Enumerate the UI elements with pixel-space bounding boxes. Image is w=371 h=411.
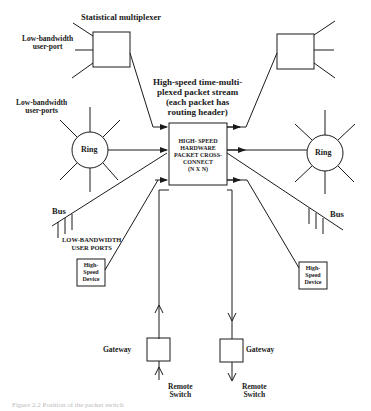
left-gateway-label: Gateway bbox=[103, 346, 131, 354]
label-line: High- bbox=[299, 265, 327, 272]
right-remote-switch-label: Remote Switch bbox=[242, 383, 267, 399]
label-line: routing header) bbox=[153, 107, 242, 117]
packet-stream-label: High-speed time-multi- plexed packet str… bbox=[153, 77, 242, 117]
label-line: LOW-BANDWIDTH bbox=[62, 236, 121, 244]
left-remote-switch-label: Remote Switch bbox=[168, 383, 193, 399]
low-bw-user-ports-label: Low-bandwidth user-ports bbox=[16, 99, 67, 115]
label-line: plexed packet stream bbox=[153, 87, 242, 97]
label-line: HIGH- SPEED bbox=[169, 138, 227, 145]
left-ring-label: Ring bbox=[81, 146, 97, 154]
label-line: USER PORTS bbox=[62, 244, 121, 252]
label-line: High- bbox=[77, 262, 105, 269]
left-gateway-box bbox=[147, 338, 170, 361]
right-gateway-box bbox=[220, 339, 243, 362]
label-line: (each packet has bbox=[153, 97, 242, 107]
cross-connect-label: HIGH- SPEED HARDWARE PACKET CROSS- CONNE… bbox=[169, 138, 227, 173]
low-bw-user-ports-caps-label: LOW-BANDWIDTH USER PORTS bbox=[62, 236, 121, 252]
stat-mux-label: Statistical multiplexer bbox=[81, 13, 161, 22]
left-hs-device-label: High- Speed Device bbox=[77, 262, 105, 283]
label-line: PACKET CROSS- bbox=[169, 152, 227, 159]
label-line: user-ports bbox=[16, 107, 67, 115]
label-line: Switch bbox=[168, 391, 193, 399]
figure-caption: Figure 2.2 Position of the packet switch bbox=[12, 401, 123, 409]
left-stat-mux-box bbox=[93, 32, 130, 67]
label-line: HARDWARE bbox=[169, 145, 227, 152]
right-ring-label: Ring bbox=[315, 149, 331, 157]
label-line: Device bbox=[299, 279, 327, 286]
label-line: High-speed time-multi- bbox=[153, 77, 242, 87]
label-line: Device bbox=[77, 276, 105, 283]
left-bus-label: Bus bbox=[52, 207, 66, 216]
right-bus-label: Bus bbox=[330, 210, 344, 219]
label-line: CONNECT bbox=[169, 159, 227, 166]
low-bw-user-port-label: Low-bandwidth user-port bbox=[22, 35, 73, 51]
label-line: Speed bbox=[77, 269, 105, 276]
right-hs-device-label: High- Speed Device bbox=[299, 265, 327, 286]
label-line: Speed bbox=[299, 272, 327, 279]
right-stat-mux-box bbox=[277, 34, 314, 69]
label-line: Switch bbox=[242, 391, 267, 399]
right-gateway-label: Gateway bbox=[246, 346, 274, 354]
label-line: user-port bbox=[22, 43, 73, 51]
label-line: (N X N) bbox=[169, 166, 227, 173]
